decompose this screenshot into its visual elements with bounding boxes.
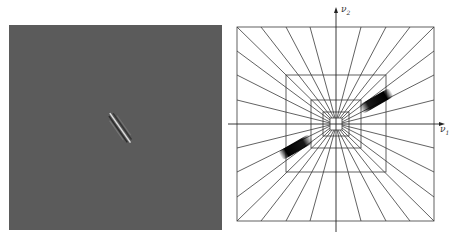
frequency-blob-upper [358, 88, 394, 115]
frequency-diagram [228, 0, 456, 232]
axis-x-label: ν1 [440, 124, 449, 136]
gabor-feature [9, 25, 222, 230]
frequency-tiling-panel: ν2 ν1 [228, 0, 456, 232]
spatial-image-panel [9, 25, 222, 230]
axis-y-label: ν2 [341, 4, 350, 16]
y-axis-arrow-icon [334, 7, 338, 13]
axis-x-subscript: 1 [445, 129, 449, 136]
axis-y-subscript: 2 [346, 9, 350, 16]
frequency-blob-lower [278, 134, 314, 161]
